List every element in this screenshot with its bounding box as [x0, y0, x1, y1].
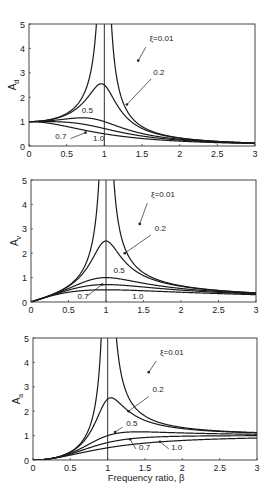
damping-label: 0.2	[155, 224, 167, 233]
annotation-arrow	[125, 235, 151, 253]
y-axis-label: Av	[9, 235, 22, 246]
y-tick-label: 5	[20, 20, 25, 30]
y-tick-label: 4	[22, 200, 27, 210]
damping-label: 0.5	[82, 106, 94, 115]
arrow-head-icon	[138, 223, 141, 226]
damping-label: 0.5	[126, 419, 138, 428]
arrow-head-icon	[126, 103, 129, 106]
y-tick-label: 0	[24, 456, 29, 466]
x-tick-label: 0	[26, 149, 31, 159]
response-factor-figure: 00.511.522.53012345Adξ=0.010.20.50.71.0 …	[0, 0, 274, 500]
arrow-head-icon	[129, 438, 132, 441]
y-tick-label: 3	[24, 382, 29, 392]
annotation-arrow	[127, 79, 151, 105]
x-axis-label: Frequency ratio, β	[108, 472, 185, 483]
damping-label: 0.2	[153, 68, 165, 77]
x-tick-label: 0	[28, 305, 33, 315]
arrow-head-icon	[137, 59, 140, 62]
arrow-head-icon	[147, 371, 150, 374]
y-tick-label: 4	[20, 44, 25, 54]
x-tick-label: 2	[178, 305, 183, 315]
damping-label: 1.0	[132, 292, 144, 301]
curves	[29, 0, 255, 144]
curve-xi-0.5	[31, 278, 256, 302]
y-tick-label: 3	[20, 68, 25, 78]
y-tick-label: 3	[22, 224, 27, 234]
arrow-head-icon	[101, 283, 104, 286]
x-tick-label: 1	[102, 149, 107, 159]
x-tick-label: 2.5	[211, 149, 224, 159]
y-tick-label: 2	[22, 249, 27, 259]
y-tick-label: 2	[24, 407, 29, 417]
damping-label: 0.7	[55, 132, 67, 141]
x-tick-label: 3	[254, 463, 259, 473]
x-tick-label: 1.5	[137, 305, 150, 315]
arrow-head-icon	[123, 252, 126, 255]
y-tick-label: 1	[24, 431, 29, 441]
annotation-arrow	[115, 427, 122, 432]
y-tick-label: 0	[20, 142, 25, 152]
x-tick-label: 0.5	[62, 305, 75, 315]
x-tick-label: 0	[30, 463, 35, 473]
damping-label: 0.5	[114, 266, 126, 275]
y-tick-label: 0	[22, 298, 27, 308]
x-tick-label: 1	[103, 305, 108, 315]
damping-label: ξ=0.01	[150, 34, 174, 43]
damping-label: 0.2	[152, 385, 164, 394]
y-tick-label: 1	[20, 117, 25, 127]
annotation-arrow	[160, 442, 169, 449]
arrow-head-icon	[127, 410, 130, 413]
x-tick-label: 0.5	[64, 463, 77, 473]
x-tick-label: 3	[253, 305, 258, 315]
damping-label: 0.7	[78, 292, 90, 301]
x-tick-label: 3	[252, 149, 257, 159]
damping-label: ξ=0.01	[151, 190, 175, 199]
y-tick-label: 1	[22, 273, 27, 283]
annotation-arrow	[138, 47, 146, 60]
axes-frame	[29, 24, 255, 146]
damping-label: 0.7	[139, 443, 151, 452]
arrow-head-icon	[84, 131, 87, 134]
y-tick-label: 5	[24, 334, 29, 344]
damping-label: ξ=0.01	[160, 348, 184, 357]
arrow-head-icon	[159, 440, 162, 443]
damping-label: 1.0	[171, 443, 183, 452]
arrow-head-icon	[114, 431, 117, 434]
y-axis-label: Ad	[7, 80, 20, 91]
annotation-arrow	[149, 361, 156, 372]
annotation-arrow	[70, 133, 85, 139]
y-tick-label: 2	[20, 93, 25, 103]
x-tick-label: 2.5	[212, 305, 225, 315]
x-tick-label: 0.5	[60, 149, 73, 159]
y-tick-label: 4	[24, 358, 29, 368]
y-axis-label: Aa	[11, 394, 24, 405]
x-tick-label: 1.5	[136, 149, 149, 159]
annotation-arrow	[140, 203, 148, 224]
x-tick-label: 2	[177, 149, 182, 159]
damping-label: 1.0	[93, 134, 105, 143]
x-tick-label: 2.5	[213, 463, 226, 473]
y-tick-label: 5	[22, 176, 27, 186]
displacement-response-chart: 00.511.522.53012345Adξ=0.010.20.50.71.0	[7, 0, 258, 159]
